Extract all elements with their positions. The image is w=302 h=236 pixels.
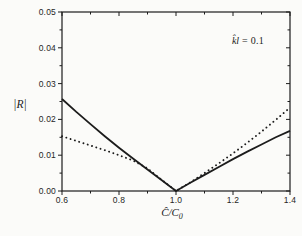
solid-curve xyxy=(62,99,290,191)
x-tick-label: 1.4 xyxy=(278,195,302,205)
y-tick-label: 0.02 xyxy=(20,114,56,124)
annotation-khat-l: k̂l = 0.1 xyxy=(218,34,278,47)
dotted-curve xyxy=(62,108,290,191)
x-axis-label-subscript: 0 xyxy=(179,212,183,221)
annotation-value: = 0.1 xyxy=(239,35,264,46)
y-tick-label: 0.01 xyxy=(20,150,56,160)
x-tick-label: 0.6 xyxy=(50,195,74,205)
x-axis-label-main: Ĉ/C xyxy=(161,206,179,218)
y-tick-label: 0.03 xyxy=(20,79,56,89)
y-tick-label: 0.00 xyxy=(20,186,56,196)
y-tick-label: 0.04 xyxy=(20,43,56,53)
x-tick-label: 1.0 xyxy=(164,195,188,205)
y-axis-label: |R| xyxy=(6,97,34,111)
x-tick-label: 1.2 xyxy=(221,195,245,205)
x-axis-label: Ĉ/C0 xyxy=(142,205,202,224)
x-tick-label: 0.8 xyxy=(107,195,131,205)
figure: |R| Ĉ/C0 k̂l = 0.1 0.60.81.01.21.40.000.… xyxy=(0,0,302,236)
y-tick-label: 0.05 xyxy=(20,7,56,17)
